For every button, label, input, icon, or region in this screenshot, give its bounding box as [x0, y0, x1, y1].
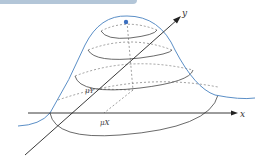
hidden-contours — [58, 22, 218, 113]
mu-y-label: μY — [85, 87, 96, 95]
y-axis — [25, 19, 178, 155]
gaussian-curve — [18, 16, 255, 126]
visible-contours — [50, 30, 218, 136]
peak-dot — [124, 20, 128, 24]
diagram-canvas: x y μY μX — [0, 0, 273, 166]
y-axis-label: y — [181, 8, 188, 18]
bivariate-gaussian-diagram: x y μY μX — [0, 0, 273, 166]
x-axis-arrow-icon — [231, 111, 238, 116]
x-axis-label: x — [240, 109, 245, 119]
mu-x-label: μX — [100, 119, 111, 127]
